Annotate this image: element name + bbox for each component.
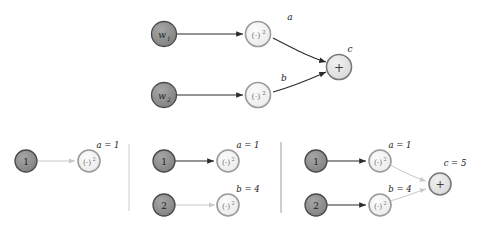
top-node-square-2-exponent: 2 [262, 90, 266, 96]
panel-3-node-square-1-label: (·) [374, 158, 382, 167]
top-graph: w 1 w 2 (·) 2 (·) 2 [152, 12, 353, 108]
panel-2-node-input-1[interactable]: 1 [153, 150, 175, 172]
computational-graph-figure: w 1 w 2 (·) 2 (·) 2 [0, 0, 480, 229]
panel-3-node-sum-label: + [435, 178, 444, 191]
panel-1-node-square-1-exponent: 2 [92, 156, 95, 162]
panel-3-node-square-2-exponent: 2 [383, 200, 386, 206]
panel-1-node-square-1-label: (·) [83, 158, 91, 167]
panel-3-node-square-2-label: (·) [374, 202, 382, 211]
panel-2-node-square-1-exponent: 2 [231, 156, 234, 162]
panel-2-node-input-2-label: 2 [161, 201, 167, 211]
top-edge-label-a: a [287, 12, 292, 22]
figure-canvas: w 1 w 2 (·) 2 (·) 2 [0, 0, 480, 229]
panel-1-edge-label-a: a = 1 [96, 140, 119, 150]
panel-3-node-sum[interactable]: + [429, 173, 451, 195]
panel-2-node-square-1[interactable]: (·) 2 [217, 150, 239, 172]
panel-3-edge-label-c: c = 5 [444, 158, 467, 168]
panel-2-node-square-2-label: (·) [222, 202, 230, 211]
top-edge-a-to-sum [273, 38, 326, 62]
panel-3: 1 2 (·) 2 (·) 2 + a = 1 b = 4 [305, 140, 466, 216]
top-node-square-2[interactable]: (·) 2 [246, 83, 271, 108]
panel-2-edge-label-b: b = 4 [236, 184, 259, 194]
panel-1-node-input-1[interactable]: 1 [15, 150, 37, 172]
top-node-w1-subscript: 1 [167, 35, 171, 42]
panel-3-node-input-2-label: 2 [313, 201, 319, 211]
panel-1: 1 (·) 2 a = 1 [15, 140, 120, 172]
panel-2: 1 2 (·) 2 (·) 2 a = 1 b = 4 [153, 140, 260, 216]
top-node-w2[interactable]: w 2 [152, 83, 177, 108]
panel-2-node-square-1-label: (·) [222, 158, 230, 167]
panel-3-edge-label-a: a = 1 [388, 140, 411, 150]
panel-2-node-square-2-exponent: 2 [231, 200, 234, 206]
top-node-square-1[interactable]: (·) 2 [246, 22, 271, 47]
top-edge-label-b: b [281, 73, 287, 83]
panel-3-node-input-1-label: 1 [313, 157, 319, 167]
top-node-w1-label: w [158, 30, 166, 40]
panel-2-node-input-1-label: 1 [161, 157, 167, 167]
top-edge-label-c: c [347, 44, 352, 54]
panel-3-edge-a-to-sum [390, 165, 426, 181]
panel-3-node-square-2[interactable]: (·) 2 [369, 194, 391, 216]
top-node-square-1-label: (·) [252, 31, 261, 40]
panel-3-node-square-1[interactable]: (·) 2 [369, 150, 391, 172]
panel-2-node-input-2[interactable]: 2 [153, 194, 175, 216]
panel-2-node-square-2[interactable]: (·) 2 [217, 194, 239, 216]
top-node-sum-label: + [334, 61, 344, 75]
panel-2-edge-label-a: a = 1 [236, 140, 259, 150]
top-node-square-2-label: (·) [252, 92, 261, 101]
top-node-w1[interactable]: w 1 [152, 22, 177, 47]
panel-3-node-square-1-exponent: 2 [383, 156, 386, 162]
top-node-w2-label: w [158, 91, 166, 101]
panel-3-node-input-1[interactable]: 1 [305, 150, 327, 172]
top-node-sum[interactable]: + [327, 55, 352, 80]
panel-3-node-input-2[interactable]: 2 [305, 194, 327, 216]
top-node-square-1-exponent: 2 [262, 29, 266, 35]
panel-1-node-square-1[interactable]: (·) 2 [78, 150, 100, 172]
panel-3-edge-label-b: b = 4 [388, 184, 411, 194]
panel-1-node-input-1-label: 1 [23, 157, 29, 167]
top-node-w2-subscript: 2 [166, 96, 171, 103]
